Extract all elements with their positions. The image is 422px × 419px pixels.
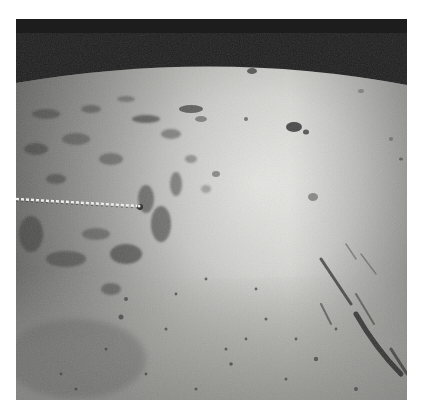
lunar-photograph	[16, 19, 407, 400]
lunar-surface-illustration	[16, 19, 407, 400]
